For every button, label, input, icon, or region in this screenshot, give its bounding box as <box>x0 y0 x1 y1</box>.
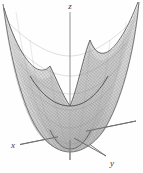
x-axis-label: x <box>10 140 15 150</box>
surface-shading <box>3 2 139 152</box>
z-axis-label: z <box>67 1 72 11</box>
y-axis-label: y <box>109 158 114 168</box>
surface-plot-figure: z x y <box>0 0 143 173</box>
surface-plot-canvas: z x y <box>0 0 143 173</box>
surface-mesh <box>3 2 139 152</box>
